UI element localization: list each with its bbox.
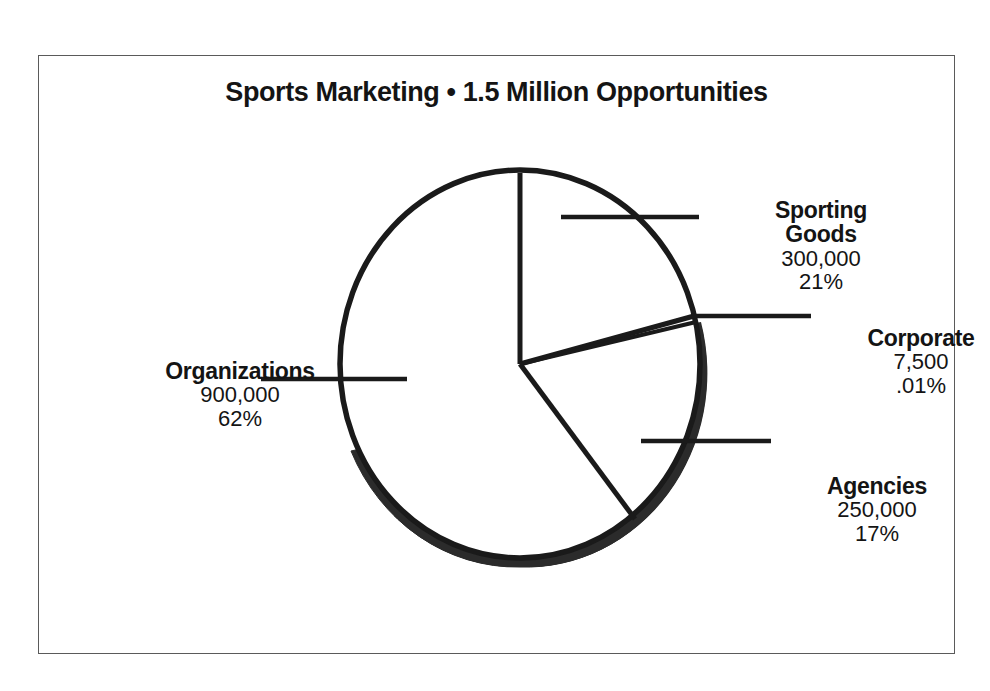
callout-corporate-name: Corporate [847,326,990,350]
chart-frame: Sports Marketing • 1.5 Million Opportuni… [38,55,955,654]
callout-corporate-value: 7,500 [847,350,990,373]
callout-agencies: Agencies 250,000 17% [807,474,947,545]
callout-organizations-value: 900,000 [142,383,338,406]
callout-agencies-name: Agencies [807,474,947,498]
callout-agencies-percent: 17% [807,522,947,545]
callout-agencies-value: 250,000 [807,498,947,521]
chart-page: Sports Marketing • 1.5 Million Opportuni… [0,0,990,691]
callout-sporting-goods-percent: 21% [741,270,901,293]
callout-corporate: Corporate 7,500 .01% [847,326,990,397]
callout-sporting-goods: Sporting Goods 300,000 21% [741,198,901,293]
callout-organizations: Organizations 900,000 62% [142,359,338,430]
callout-sporting-goods-name-line2: Goods [741,222,901,246]
callout-sporting-goods-value: 300,000 [741,247,901,270]
callout-sporting-goods-name-line1: Sporting [741,198,901,222]
pie-chart-graphic [39,56,956,655]
callout-organizations-percent: 62% [142,407,338,430]
callout-corporate-percent: .01% [847,374,990,397]
callout-organizations-name: Organizations [142,359,338,383]
